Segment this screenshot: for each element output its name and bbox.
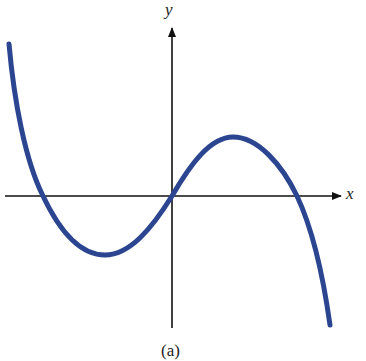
y-axis-label: y: [165, 0, 173, 20]
x-axis-label: x: [346, 184, 354, 204]
cubic-curve: [9, 44, 330, 325]
figure-caption: (a): [161, 341, 180, 361]
